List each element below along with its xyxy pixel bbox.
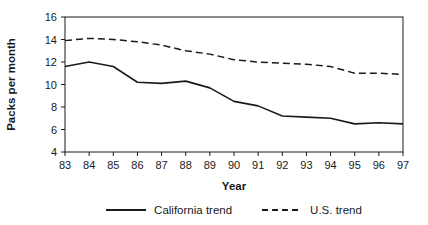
y-axis-tick-label: 4	[51, 146, 57, 158]
x-axis-tick-label: 93	[300, 159, 312, 171]
x-axis-tick-label: 95	[349, 159, 361, 171]
legend-label-california: California trend	[154, 204, 232, 216]
y-axis-tick-label: 12	[45, 56, 57, 68]
x-axis-tick-label: 83	[59, 159, 71, 171]
legend-item-us: U.S. trend	[262, 204, 362, 216]
legend-item-california: California trend	[106, 204, 232, 216]
x-axis-tick-label: 86	[131, 159, 143, 171]
california-line-sample-icon	[106, 209, 146, 211]
x-axis-tick-label: 91	[252, 159, 264, 171]
y-axis-tick-label: 10	[45, 79, 57, 91]
y-axis-tick-label: 6	[51, 124, 57, 136]
y-axis-tick-label: 8	[51, 101, 57, 113]
legend-label-us: U.S. trend	[310, 204, 362, 216]
x-axis-title: Year	[222, 180, 247, 192]
x-axis-tick-label: 96	[373, 159, 385, 171]
x-axis-tick-label: 89	[204, 159, 216, 171]
chart-legend: California trend U.S. trend	[65, 201, 403, 219]
plot-border	[65, 17, 403, 152]
x-axis-tick-label: 94	[324, 159, 336, 171]
x-axis-tick-label: 92	[276, 159, 288, 171]
y-axis-tick-label: 16	[45, 11, 57, 23]
x-axis-tick-label: 85	[107, 159, 119, 171]
x-axis-tick-label: 87	[155, 159, 167, 171]
x-axis-tick-label: 88	[180, 159, 192, 171]
chart-figure: 4681012141683848586878889909192939495969…	[0, 0, 428, 225]
x-axis-tick-label: 84	[83, 159, 95, 171]
y-axis-title: Packs per month	[5, 38, 17, 131]
california-trend-line	[65, 62, 403, 124]
us-line-sample-icon	[262, 209, 302, 211]
x-axis-tick-label: 97	[397, 159, 409, 171]
x-axis-tick-label: 90	[228, 159, 240, 171]
y-axis-tick-label: 14	[45, 34, 57, 46]
line-chart-plot: 4681012141683848586878889909192939495969…	[0, 0, 428, 225]
